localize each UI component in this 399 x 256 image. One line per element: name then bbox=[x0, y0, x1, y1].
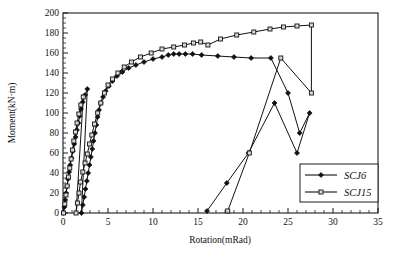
data-point-marker bbox=[309, 91, 313, 95]
data-point-marker bbox=[85, 152, 89, 156]
data-point-marker bbox=[83, 187, 88, 192]
x-axis-title: Rotation(mRad) bbox=[189, 235, 251, 246]
y-tick-label: 40 bbox=[50, 168, 60, 178]
data-point-marker bbox=[151, 57, 156, 62]
data-point-marker bbox=[199, 40, 203, 44]
x-tick-label: 5 bbox=[106, 217, 111, 227]
data-point-marker bbox=[86, 171, 91, 176]
data-point-marker bbox=[75, 121, 79, 125]
y-tick-label: 200 bbox=[45, 8, 60, 18]
data-point-marker bbox=[79, 180, 83, 184]
x-tick-label: 15 bbox=[193, 217, 203, 227]
data-point-marker bbox=[129, 60, 133, 64]
data-point-marker bbox=[295, 151, 300, 156]
data-point-marker bbox=[171, 52, 176, 57]
y-axis-title: Moment(kN·m) bbox=[7, 83, 18, 144]
data-point-marker bbox=[64, 193, 68, 197]
data-point-marker bbox=[102, 91, 106, 95]
data-point-marker bbox=[106, 83, 110, 87]
data-point-marker bbox=[84, 179, 89, 184]
data-point-marker bbox=[247, 151, 251, 155]
y-tick-label: 180 bbox=[45, 28, 60, 38]
data-point-marker bbox=[319, 190, 323, 194]
y-tick-label: 0 bbox=[54, 208, 59, 218]
x-axis-tick-labels: 05101520253035 bbox=[61, 217, 383, 227]
data-point-marker bbox=[226, 209, 230, 213]
data-point-marker bbox=[149, 51, 153, 55]
data-point-marker bbox=[122, 65, 126, 69]
data-series-layer bbox=[61, 23, 313, 216]
data-point-marker bbox=[68, 166, 72, 170]
data-point-marker bbox=[69, 157, 73, 161]
data-point-marker bbox=[88, 142, 92, 146]
data-point-marker bbox=[190, 52, 195, 57]
data-point-marker bbox=[75, 201, 79, 205]
data-point-marker bbox=[85, 87, 90, 92]
x-tick-label: 0 bbox=[61, 217, 66, 227]
data-point-marker bbox=[177, 52, 182, 57]
data-point-marker bbox=[160, 55, 165, 60]
y-tick-label: 140 bbox=[45, 68, 60, 78]
data-point-marker bbox=[282, 25, 286, 29]
moment-rotation-chart: 05101520253035 0204060801001201401601802… bbox=[0, 0, 399, 256]
data-point-marker bbox=[116, 71, 120, 75]
y-tick-label: 160 bbox=[45, 48, 60, 58]
data-point-marker bbox=[219, 37, 223, 41]
data-point-marker bbox=[83, 161, 87, 165]
data-point-marker bbox=[166, 53, 171, 58]
data-point-marker bbox=[268, 56, 273, 61]
data-point-marker bbox=[66, 175, 70, 179]
data-point-marker bbox=[206, 43, 210, 47]
data-point-marker bbox=[183, 43, 187, 47]
data-point-marker bbox=[138, 55, 142, 59]
data-point-marker bbox=[183, 52, 188, 57]
data-point-marker bbox=[81, 170, 85, 174]
data-point-marker bbox=[93, 122, 97, 126]
data-point-marker bbox=[160, 47, 164, 51]
legend-label: SCJ15 bbox=[344, 187, 371, 198]
data-point-marker bbox=[272, 101, 277, 106]
x-tick-label: 10 bbox=[148, 217, 158, 227]
data-point-marker bbox=[61, 211, 65, 215]
x-tick-label: 25 bbox=[283, 217, 293, 227]
data-point-marker bbox=[74, 211, 78, 215]
data-point-marker bbox=[126, 66, 131, 71]
y-axis-tick-labels: 020406080100120140160180200 bbox=[45, 8, 60, 218]
data-point-marker bbox=[133, 63, 138, 68]
data-point-marker bbox=[142, 60, 147, 65]
data-point-marker bbox=[295, 24, 299, 28]
data-point-marker bbox=[172, 45, 176, 49]
chart-legend: SCJ6SCJ15 bbox=[300, 164, 378, 202]
data-point-marker bbox=[87, 163, 92, 168]
data-point-marker bbox=[96, 111, 100, 115]
x-tick-label: 20 bbox=[238, 217, 248, 227]
data-point-marker bbox=[286, 91, 291, 96]
data-point-marker bbox=[215, 54, 220, 59]
data-point-marker bbox=[81, 95, 85, 99]
data-point-marker bbox=[70, 148, 74, 152]
y-tick-label: 120 bbox=[45, 88, 60, 98]
data-point-marker bbox=[73, 130, 77, 134]
data-point-marker bbox=[199, 53, 204, 58]
data-point-marker bbox=[111, 77, 115, 81]
data-point-marker bbox=[297, 131, 302, 136]
series-scj15 bbox=[61, 23, 313, 215]
data-point-marker bbox=[279, 56, 283, 60]
x-tick-label: 35 bbox=[373, 217, 383, 227]
y-tick-label: 20 bbox=[50, 188, 60, 198]
data-point-marker bbox=[79, 103, 83, 107]
data-point-marker bbox=[90, 147, 95, 152]
x-tick-label: 30 bbox=[328, 217, 338, 227]
data-point-marker bbox=[307, 111, 312, 116]
chart-figure: 05101520253035 0204060801001201401601802… bbox=[0, 0, 399, 256]
data-point-marker bbox=[80, 203, 85, 208]
data-point-marker bbox=[235, 33, 239, 37]
data-point-marker bbox=[99, 101, 103, 105]
y-tick-label: 80 bbox=[50, 128, 60, 138]
data-point-marker bbox=[63, 202, 67, 206]
data-point-marker bbox=[72, 139, 76, 143]
y-tick-label: 100 bbox=[45, 108, 60, 118]
data-point-marker bbox=[90, 133, 94, 137]
data-point-marker bbox=[192, 41, 196, 45]
y-tick-label: 60 bbox=[50, 148, 60, 158]
